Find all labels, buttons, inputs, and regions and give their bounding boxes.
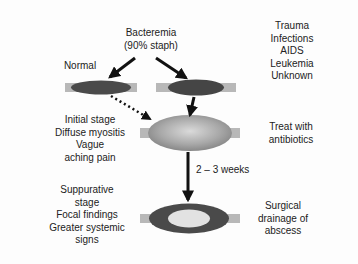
muscle-belly: [148, 115, 232, 151]
treat-label: Treat with antibiotics: [260, 121, 322, 146]
initial-stage-label: Initial stage Diffuse myositis Vague ach…: [48, 114, 132, 164]
muscle-belly: [71, 81, 131, 95]
arrow-to-swollen: [190, 97, 194, 115]
surgical-label: Surgical drainage of abscess: [252, 200, 314, 238]
abscess-core: [168, 210, 210, 228]
duration-label: 2 – 3 weeks: [196, 164, 264, 177]
infected-muscle: [156, 80, 236, 96]
risk-factors-list: Trauma Infections AIDS Leukemia Unknown: [262, 20, 322, 83]
muscle-belly: [168, 80, 224, 96]
swollen-muscle: [140, 115, 240, 151]
arrow-to-infected: [156, 58, 186, 78]
normal-muscle: [65, 81, 137, 95]
suppurative-stage-label: Suppurative stage Focal findings Greater…: [46, 184, 128, 247]
normal-label: Normal: [60, 60, 100, 73]
abscess-muscle: [140, 204, 240, 234]
bacteremia-label: Bacteremia (90% staph): [116, 27, 186, 52]
arrow-to-normal: [110, 58, 135, 77]
